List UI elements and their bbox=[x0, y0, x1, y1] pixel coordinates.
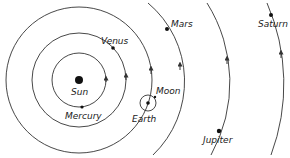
mars-icon bbox=[165, 27, 169, 31]
mars-label: Mars bbox=[171, 19, 193, 29]
sun-icon bbox=[75, 76, 83, 84]
sun-label: Sun bbox=[71, 87, 88, 97]
jupiter-label: Jupiter bbox=[201, 135, 234, 145]
solar-system-diagram: Sun Mercury Venus Earth Moon Mars Jupite… bbox=[0, 0, 290, 158]
venus-label: Venus bbox=[101, 36, 129, 46]
moon-label: Moon bbox=[156, 86, 181, 96]
mercury-icon bbox=[80, 105, 83, 108]
jupiter-icon bbox=[217, 129, 221, 133]
moon-icon bbox=[154, 96, 156, 98]
saturn-label: Saturn bbox=[258, 19, 288, 29]
venus-icon bbox=[111, 46, 115, 50]
saturn-icon bbox=[269, 13, 273, 17]
mercury-label: Mercury bbox=[65, 111, 102, 121]
earth-icon bbox=[146, 101, 150, 105]
earth-label: Earth bbox=[132, 114, 156, 124]
